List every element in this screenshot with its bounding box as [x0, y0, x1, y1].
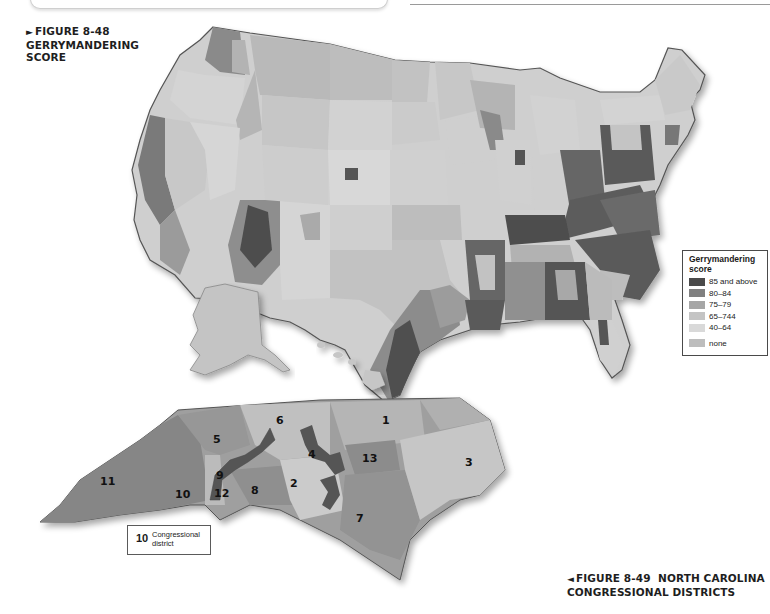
- nc-district-6-label: 6: [276, 414, 284, 427]
- nc-district-9-label: 9: [216, 469, 224, 482]
- nc-district-12-label: 12: [214, 487, 229, 500]
- nc-district-8-label: 8: [251, 484, 259, 497]
- legend-item-85-above: 85 and above: [689, 276, 767, 288]
- nc-district-10-label: 10: [175, 488, 190, 501]
- legend-swatch: [689, 324, 705, 332]
- legend-item-75-79: 75–79: [689, 299, 767, 311]
- legend-item-40-64: 40–64: [689, 322, 767, 334]
- gerrymandering-legend: Gerrymandering score 85 and above 80–84 …: [682, 250, 768, 356]
- nc-district-11-label: 11: [100, 475, 115, 488]
- nc-district-5-label: 5: [213, 433, 221, 446]
- legend-sample-number: 10: [136, 532, 148, 544]
- nc-district-2-label: 2: [290, 477, 298, 490]
- congressional-district-legend: 10 Congressional district: [127, 525, 211, 555]
- nc-district-1-label: 1: [382, 414, 390, 427]
- legend-swatch: [689, 312, 705, 320]
- nc-district-13-label: 13: [362, 452, 377, 465]
- nc-district-3-label: 3: [465, 456, 473, 469]
- legend-item-65-74: 65–744: [689, 311, 767, 323]
- figure-49-title-2: CONGRESSIONAL DISTRICTS: [567, 586, 735, 598]
- legend-swatch: [689, 301, 705, 309]
- caption-arrow-icon: ◄: [567, 574, 574, 584]
- legend-item-80-84: 80–84: [689, 288, 767, 300]
- legend-swatch: [689, 339, 705, 347]
- legend-item-none: none: [689, 338, 767, 350]
- figure-49-number: FIGURE 8-49: [576, 572, 651, 584]
- legend-swatch: [689, 289, 705, 297]
- figure-49-title-1: NORTH CAROLINA: [658, 572, 765, 584]
- legend-swatch: [689, 278, 705, 286]
- legend-title: Gerrymandering score: [689, 255, 767, 274]
- figure-49-caption: ◄FIGURE 8-49 NORTH CAROLINA CONGRESSIONA…: [567, 572, 767, 598]
- north-carolina-map: [40, 398, 505, 580]
- nc-district-7-label: 7: [356, 512, 364, 525]
- legend-district-text: Congressional district: [152, 530, 200, 548]
- nc-district-4-label: 4: [308, 448, 316, 461]
